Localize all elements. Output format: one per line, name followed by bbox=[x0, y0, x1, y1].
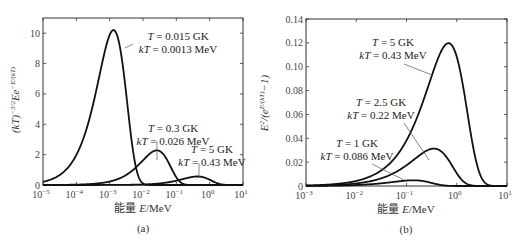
x-tick-label: 101 bbox=[234, 188, 248, 200]
y-tick-label: 10 bbox=[30, 28, 40, 39]
series-annotation: T = 5 GK bbox=[372, 36, 414, 48]
x-tick-label: 10−1 bbox=[396, 189, 414, 201]
series-annotation: kT = 0.086 MeV bbox=[321, 150, 394, 162]
x-axis-title-b: 能量 E/MeV bbox=[377, 202, 434, 215]
panel-label-b: (b) bbox=[400, 223, 413, 236]
series-annotation: T = 1 GK bbox=[336, 137, 378, 149]
x-tick-label: 10−1 bbox=[166, 188, 184, 200]
series-annotation: kT = 0.0013 MeV bbox=[139, 43, 217, 55]
annotation-leader bbox=[372, 164, 404, 180]
annotation-leader bbox=[404, 123, 429, 160]
y-tick-label: 8 bbox=[35, 58, 40, 69]
annotations-a: T = 0.015 GKkT = 0.0013 MeVT = 0.3 GKkT … bbox=[125, 30, 246, 178]
y-tick-label: 0.14 bbox=[286, 14, 304, 25]
series-annotation: T = 0.3 GK bbox=[148, 122, 198, 134]
series-annotation: kT = 0.43 MeV bbox=[359, 49, 426, 61]
series-annotation: T = 0.015 GK bbox=[147, 30, 208, 42]
series-curve bbox=[43, 176, 243, 185]
y-tick-label: 0.12 bbox=[286, 37, 304, 48]
y-tick-label: 0.04 bbox=[286, 133, 304, 144]
y-tick-label: 0.08 bbox=[286, 85, 304, 96]
series-annotation: T = 5 GK bbox=[191, 143, 233, 155]
y-tick-label: 0.10 bbox=[286, 61, 304, 72]
x-tick-label: 10−2 bbox=[132, 188, 150, 200]
y-tick-label: 0 bbox=[35, 180, 40, 191]
series-annotation: kT = 0.43 MeV bbox=[178, 156, 245, 168]
y-tick-label: 6 bbox=[35, 88, 40, 99]
x-tick-label: 10−4 bbox=[66, 188, 84, 200]
x-tick-label: 10−2 bbox=[346, 189, 364, 201]
y-axis-title-b: E2/(eE/(kT)−1) bbox=[258, 75, 271, 133]
figure: 10−510−410−310−210−11001010246810 T = 0.… bbox=[0, 0, 523, 244]
x-tick-label: 10−3 bbox=[99, 188, 117, 200]
y-axis-title-a: (kT)−3/2Ee−E/(kT) bbox=[9, 66, 22, 133]
series-annotation: T = 2.5 GK bbox=[356, 96, 406, 108]
y-tick-label: 4 bbox=[35, 119, 40, 130]
chart-panel-b: 10−310−210−110010100.020.040.060.080.100… bbox=[258, 14, 512, 237]
annotation-leader bbox=[125, 44, 133, 48]
series-annotation: kT = 0.22 MeV bbox=[347, 109, 414, 121]
y-tick-label: 2 bbox=[35, 149, 40, 160]
y-tick-label: 0.02 bbox=[286, 157, 304, 168]
x-tick-label: 100 bbox=[448, 189, 462, 201]
chart-panel-a: 10−510−410−310−210−11001010246810 T = 0.… bbox=[9, 18, 248, 235]
x-tick-label: 101 bbox=[498, 189, 512, 201]
annotation-leader bbox=[404, 64, 432, 75]
x-tick-label: 100 bbox=[201, 188, 215, 200]
x-axis-title-a: 能量 E/MeV bbox=[114, 201, 171, 214]
y-tick-label: 0.06 bbox=[286, 109, 304, 120]
panel-label-a: (a) bbox=[137, 222, 150, 235]
y-tick-label: 0 bbox=[298, 181, 303, 192]
